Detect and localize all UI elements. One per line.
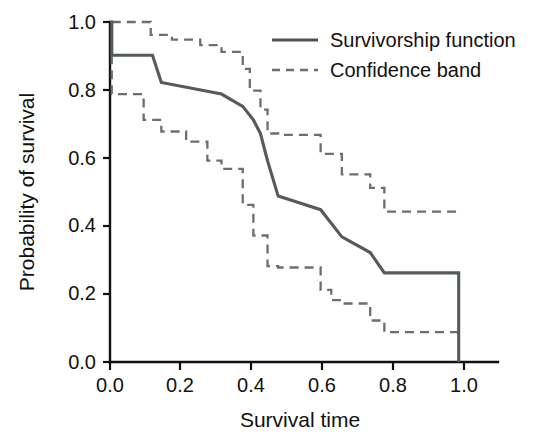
- y-axis-tick-labels: 1.0 0.8 0.6 0.4 0.2 0.0: [68, 11, 96, 373]
- x-tick-label-1.0: 1.0: [450, 374, 478, 396]
- x-tick-label-0.4: 0.4: [237, 374, 265, 396]
- confidence-band-lower-line: [112, 55, 459, 332]
- survival-chart: 1.0 0.8 0.6 0.4 0.2 0.0: [0, 0, 536, 440]
- y-tick-label-0.6: 0.6: [68, 147, 96, 169]
- x-axis-title: Survival time: [240, 408, 360, 431]
- y-tick-label-0.4: 0.4: [68, 214, 96, 236]
- y-tick-label-1.0: 1.0: [68, 11, 96, 33]
- y-tick-label-0.2: 0.2: [68, 282, 96, 304]
- y-tick-label-0.0: 0.0: [68, 351, 96, 373]
- chart-canvas: 1.0 0.8 0.6 0.4 0.2 0.0: [0, 0, 536, 440]
- legend-label-confidence: Confidence band: [330, 59, 481, 81]
- legend-label-survivorship: Survivorship function: [330, 29, 516, 51]
- x-axis: [110, 362, 498, 370]
- x-tick-label-0.6: 0.6: [308, 374, 336, 396]
- x-axis-tick-labels: 0.0 0.2 0.4 0.6 0.8 1.0: [96, 374, 478, 396]
- chart-legend: Survivorship function Confidence band: [272, 29, 516, 81]
- x-tick-label-0.8: 0.8: [379, 374, 407, 396]
- y-axis: [103, 22, 110, 362]
- x-tick-label-0.2: 0.2: [166, 374, 194, 396]
- y-axis-title: Probability of survival: [15, 93, 38, 291]
- y-tick-label-0.8: 0.8: [68, 79, 96, 101]
- x-tick-label-0.0: 0.0: [96, 374, 124, 396]
